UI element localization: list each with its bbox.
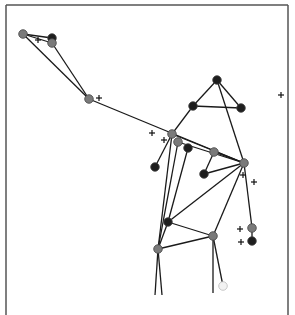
- joint-Q-gray: [154, 245, 163, 254]
- joint-R-gray: [248, 224, 257, 233]
- bone-N-P: [213, 163, 244, 236]
- bone-K-N: [214, 152, 244, 163]
- plus-marker-icon: [251, 179, 257, 185]
- plus-marker-icon: [238, 239, 244, 245]
- joint-F-dark: [189, 102, 198, 111]
- bone-P-T: [213, 236, 223, 286]
- bone-F-H: [172, 106, 193, 134]
- bone-F-G: [193, 106, 241, 108]
- joint-P-gray: [209, 232, 218, 241]
- plus-marker-icon: [278, 92, 284, 98]
- joint-O-dark: [164, 218, 173, 227]
- joint-H-gray: [168, 130, 177, 139]
- bone-J-O: [168, 148, 188, 222]
- keypoint-markers: [35, 37, 284, 245]
- joint-G-dark: [237, 104, 246, 113]
- bone-C-D: [52, 43, 89, 99]
- joint-K-gray: [210, 148, 219, 157]
- bone-O-P: [168, 222, 213, 236]
- joint-T-white: [219, 282, 228, 291]
- bone-E-N: [217, 80, 244, 163]
- plus-marker-icon: [161, 137, 167, 143]
- skeleton-edges: [23, 34, 252, 295]
- joint-I-gray: [174, 138, 183, 147]
- bone-N-R: [244, 163, 252, 228]
- joint-L-dark: [151, 163, 160, 172]
- bone-Q-P: [158, 236, 213, 249]
- bone-open-0: [155, 249, 158, 295]
- joint-N-gray: [240, 159, 249, 168]
- skeleton-joints: [19, 30, 257, 291]
- bone-E-G: [217, 80, 241, 108]
- joint-S-dark: [248, 237, 257, 246]
- bone-E-F: [193, 80, 217, 106]
- joint-J-dark: [184, 144, 193, 153]
- joint-A-gray: [19, 30, 28, 39]
- plus-marker-icon: [237, 226, 243, 232]
- joint-D-gray: [85, 95, 94, 104]
- joint-M-dark: [200, 170, 209, 179]
- plus-marker-icon: [96, 95, 102, 101]
- joint-E-dark: [213, 76, 222, 85]
- bone-open-1: [158, 249, 162, 295]
- skeleton-diagram: [0, 0, 295, 315]
- plus-marker-icon: [149, 130, 155, 136]
- bone-M-N: [204, 163, 244, 174]
- joint-C-gray: [48, 39, 57, 48]
